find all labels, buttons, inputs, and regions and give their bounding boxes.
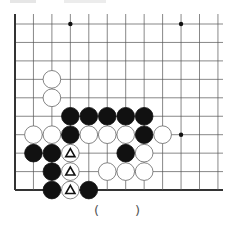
black-stone (135, 107, 153, 125)
white-stone (43, 89, 61, 107)
black-stone (43, 144, 61, 162)
white-stone (98, 126, 116, 144)
black-stone (62, 126, 80, 144)
star-point-icon (68, 22, 72, 26)
black-stone (80, 181, 98, 199)
answer-open-paren: ( (94, 203, 99, 218)
black-stone (25, 144, 43, 162)
white-stone (154, 126, 172, 144)
star-point-icon (179, 22, 183, 26)
white-stone (98, 163, 116, 181)
black-stone (117, 107, 135, 125)
white-stone (62, 163, 80, 181)
white-stone (117, 126, 135, 144)
black-stone (117, 144, 135, 162)
black-stone (43, 163, 61, 181)
white-stone (43, 126, 61, 144)
answer-close-paren: ) (135, 203, 140, 218)
star-point-icon (179, 133, 183, 137)
go-board-diagram (0, 0, 239, 229)
white-stone (25, 126, 43, 144)
white-stone (135, 163, 153, 181)
white-stone (135, 144, 153, 162)
white-stone (43, 71, 61, 89)
white-stone (117, 163, 135, 181)
white-stone (62, 181, 80, 199)
white-stone (62, 144, 80, 162)
black-stone (98, 107, 116, 125)
answer-blank: ( ) (94, 203, 140, 218)
black-stone (135, 126, 153, 144)
black-stone (80, 107, 98, 125)
stones-layer (25, 71, 172, 199)
black-stone (62, 107, 80, 125)
black-stone (43, 181, 61, 199)
white-stone (80, 126, 98, 144)
